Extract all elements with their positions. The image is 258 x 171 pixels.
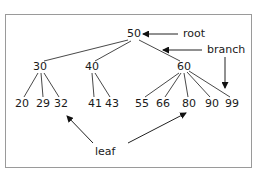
edge-30-29 bbox=[41, 73, 43, 97]
edge-40-43 bbox=[95, 73, 110, 97]
node-level1: 40 bbox=[85, 60, 99, 73]
edge-60-66 bbox=[165, 73, 181, 97]
node-leaf: 20 bbox=[15, 97, 29, 110]
node-leaf: 43 bbox=[105, 97, 119, 110]
node-leaf: 55 bbox=[135, 97, 149, 110]
edge-60-99 bbox=[189, 71, 230, 97]
tree-edges bbox=[24, 40, 230, 97]
node-leaf: 80 bbox=[182, 97, 196, 110]
annotation-arrows bbox=[67, 34, 225, 143]
tree-nodes: 50 30 40 60 20 29 32 41 43 55 66 80 90 9… bbox=[15, 27, 239, 110]
leaf-arrow-right-icon bbox=[128, 113, 186, 143]
root-label: root bbox=[183, 27, 206, 40]
node-leaf: 41 bbox=[88, 97, 102, 110]
edge-50-30 bbox=[44, 40, 128, 61]
edge-40-41 bbox=[92, 73, 94, 97]
leaf-label: leaf bbox=[95, 145, 117, 158]
edge-30-20 bbox=[24, 73, 38, 97]
node-level1: 60 bbox=[177, 60, 191, 73]
node-leaf: 99 bbox=[225, 97, 239, 110]
edge-60-55 bbox=[145, 73, 179, 97]
leaf-arrow-left-icon bbox=[67, 116, 93, 143]
node-leaf: 29 bbox=[36, 97, 50, 110]
branch-label: branch bbox=[207, 43, 245, 56]
tree-diagram: 50 30 40 60 20 29 32 41 43 55 66 80 90 9… bbox=[0, 0, 258, 171]
edge-60-90 bbox=[187, 72, 210, 97]
node-level1: 30 bbox=[33, 60, 47, 73]
node-leaf: 66 bbox=[156, 97, 170, 110]
node-leaf: 90 bbox=[205, 97, 219, 110]
node-root: 50 bbox=[127, 27, 141, 40]
node-leaf: 32 bbox=[54, 97, 68, 110]
edge-30-32 bbox=[44, 73, 59, 97]
edge-60-80 bbox=[184, 73, 188, 97]
